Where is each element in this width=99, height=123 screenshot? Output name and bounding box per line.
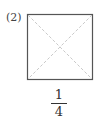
numerator: 1	[49, 88, 69, 102]
fraction-answer: 1 4	[49, 88, 69, 119]
denominator: 4	[49, 105, 69, 119]
